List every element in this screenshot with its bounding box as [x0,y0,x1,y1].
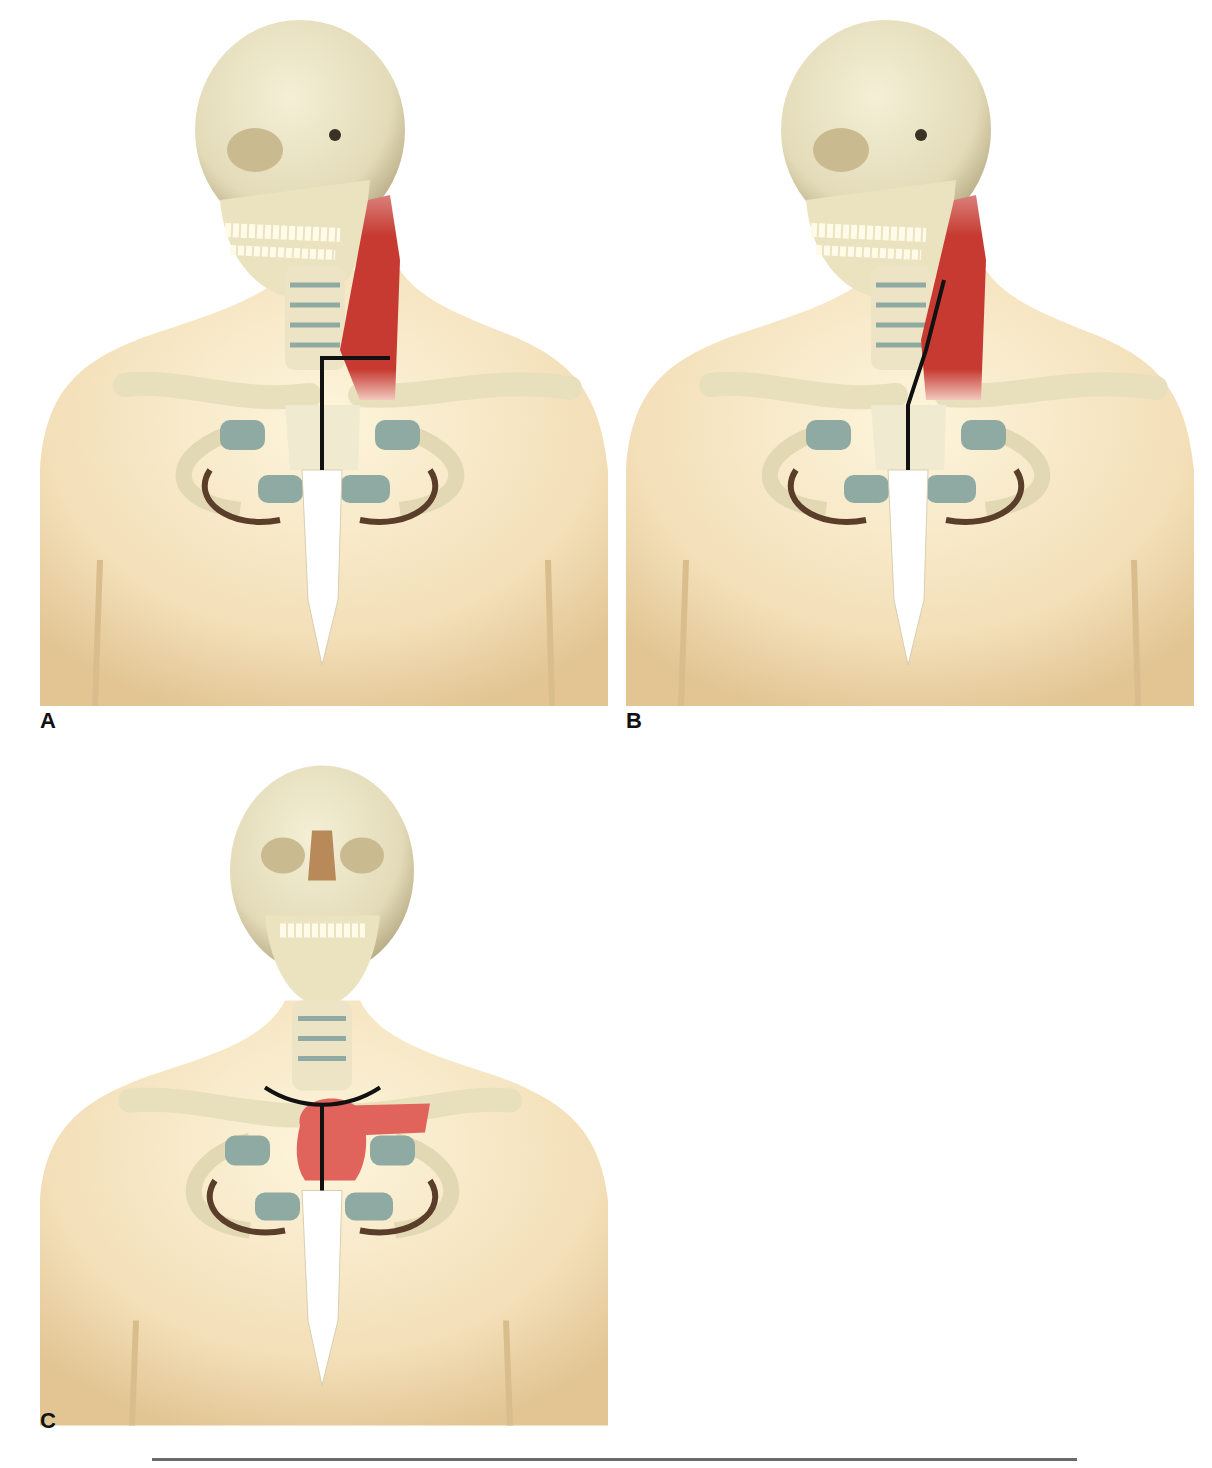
panel-b [626,0,1196,706]
skull-icon [230,766,414,1006]
panel-label-a: A [40,708,56,734]
panel-label-b: B [626,708,642,734]
figure-caption [152,1464,1077,1468]
panel-a [40,0,610,706]
oblique-neck-illustration-a [40,0,610,706]
cervical-spine [285,265,345,370]
panel-label-c: C [40,1408,56,1434]
cervical-spine [292,1001,352,1091]
caption-divider [152,1458,1077,1461]
cervical-spine [871,265,931,370]
oblique-neck-illustration-b [626,0,1196,706]
frontal-neck-illustration-c [40,740,610,1446]
panel-c [40,740,610,1446]
resection-area-clavicle [350,1104,430,1136]
